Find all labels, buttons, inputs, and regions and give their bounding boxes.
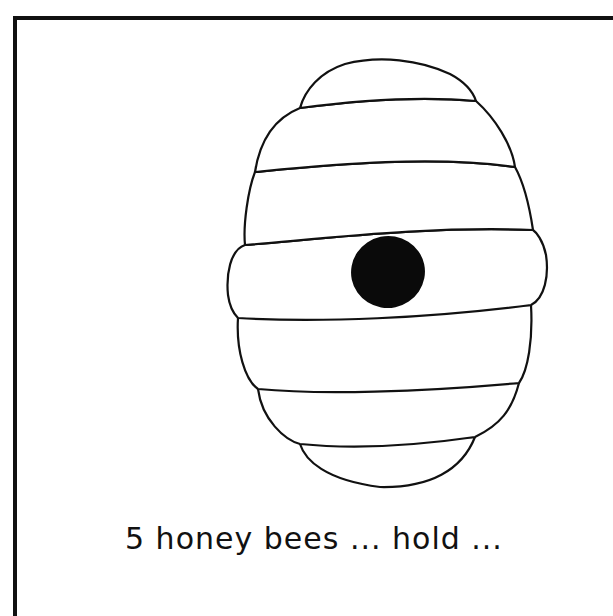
caption-text: 5 honey bees ... hold ... — [125, 521, 503, 557]
hive-band-1 — [255, 99, 515, 172]
